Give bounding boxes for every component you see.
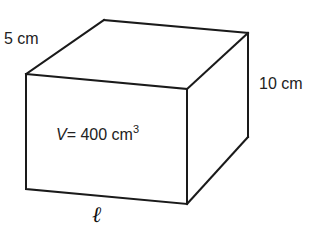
bottom-right-edge bbox=[187, 137, 248, 204]
volume-exponent: 3 bbox=[133, 123, 139, 135]
volume-value: = 400 cm bbox=[67, 126, 133, 143]
top-right-edge bbox=[187, 33, 248, 89]
depth-label: 5 cm bbox=[4, 30, 39, 47]
top-back-edge bbox=[104, 20, 248, 33]
prism-diagram: 5 cm 10 cm V= 400 cm3 ℓ bbox=[0, 0, 321, 242]
volume-label: V= 400 cm3 bbox=[56, 123, 139, 143]
length-label: ℓ bbox=[92, 202, 102, 227]
top-left-edge bbox=[26, 20, 104, 74]
height-label: 10 cm bbox=[259, 75, 303, 92]
